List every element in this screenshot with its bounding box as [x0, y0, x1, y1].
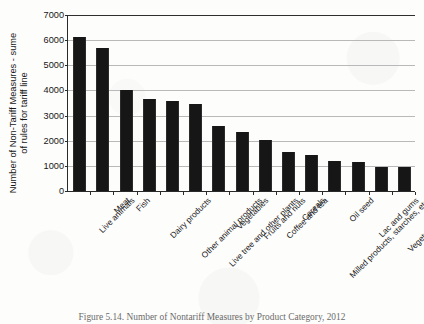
bar: [352, 162, 365, 191]
bar: [236, 132, 249, 191]
bar: [259, 140, 272, 191]
y-axis-tick-label: 6000: [34, 36, 64, 45]
bar: [375, 167, 388, 191]
y-axis-tick-label: 1000: [34, 162, 64, 171]
bar: [305, 155, 318, 191]
bar: [212, 126, 225, 191]
y-axis-title-line-1: Number of Non-Tariff Measures - sume: [8, 33, 19, 194]
bar: [189, 104, 202, 191]
y-axis-tick-label: 7000: [34, 11, 64, 20]
y-axis-tick-label: 5000: [34, 61, 64, 70]
y-axis-tick-label: 3000: [34, 112, 64, 121]
figure-container: Number of Non-Tariff Measures - sume of …: [0, 0, 424, 324]
bar: [398, 167, 411, 191]
y-axis-title: Number of Non-Tariff Measures - sume of …: [2, 18, 36, 208]
bar: [143, 99, 156, 191]
bar: [120, 90, 133, 191]
y-axis-title-line-2: of rules for tariff line: [19, 72, 30, 153]
y-axis-tick-labels: 70006000500040003000200010000: [34, 8, 64, 198]
bar: [96, 48, 109, 191]
y-axis-tick-label: 2000: [34, 137, 64, 146]
bar: [73, 37, 86, 191]
bar: [166, 101, 179, 192]
bar: [328, 161, 341, 191]
x-axis-category-labels: Live animalsMeatFishDairy productsOther …: [0, 192, 424, 302]
x-axis-category-label: Fish: [135, 196, 152, 213]
y-axis-tick-label: 4000: [34, 86, 64, 95]
bars-group: [67, 15, 415, 192]
figure-caption: Figure 5.14. Number of Nontariff Measure…: [0, 312, 424, 322]
x-axis-category-label: Oil seed: [348, 196, 376, 224]
bar: [282, 152, 295, 191]
plot-area: [67, 15, 415, 192]
x-axis-category-label: Dairy products: [169, 196, 213, 240]
